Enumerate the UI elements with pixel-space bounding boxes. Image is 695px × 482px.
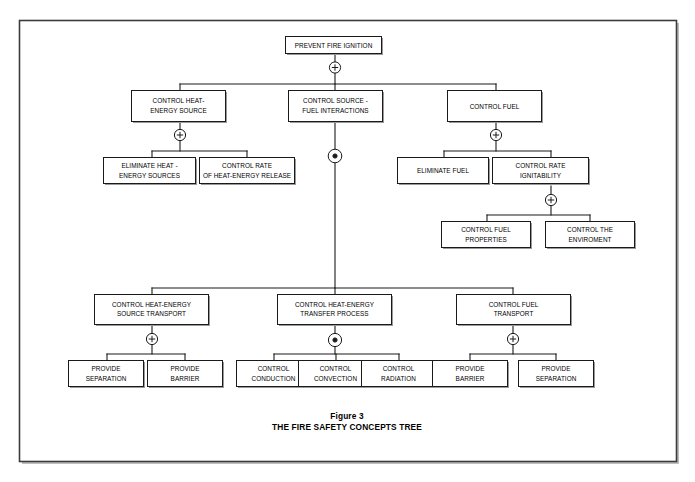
node-label-line1: PROVIDE bbox=[91, 365, 120, 372]
node-label-line1: CONTROL THE bbox=[567, 226, 613, 233]
figure-caption: Figure 3 THE FIRE SAFETY CONCEPTS TREE bbox=[272, 411, 422, 432]
figure-page: PREVENT FIRE IGNITION CONTROL HEAT- ENER… bbox=[0, 0, 695, 482]
node-provide-barrier-left[interactable]: PROVIDE BARRIER bbox=[148, 361, 225, 389]
node-label-line1: PREVENT FIRE IGNITION bbox=[295, 42, 373, 49]
gate-root-or[interactable] bbox=[329, 62, 340, 73]
node-label-line2: CONVECTION bbox=[314, 375, 357, 382]
node-control-heat-energy-source-transport[interactable]: CONTROL HEAT-ENERGY SOURCE TRANSPORT bbox=[95, 295, 211, 327]
node-label-line2: BARRIER bbox=[456, 375, 485, 382]
node-label-line2: SEPARATION bbox=[86, 375, 127, 382]
node-eliminate-heat-energy-sources[interactable]: ELIMINATE HEAT - ENERGY SOURCES bbox=[104, 158, 198, 186]
gate-source-transport-or[interactable] bbox=[146, 333, 157, 344]
node-label-line2: ENVIROMENT bbox=[568, 236, 611, 243]
node-control-source-fuel-interactions[interactable]: CONTROL SOURCE - FUEL INTERACTIONS bbox=[289, 91, 385, 124]
node-label-line1: CONTROL bbox=[320, 365, 352, 372]
node-control-fuel[interactable]: CONTROL FUEL bbox=[448, 91, 544, 124]
node-label-line1: CONTROL HEAT- bbox=[153, 97, 205, 104]
node-prevent-fire-ignition[interactable]: PREVENT FIRE IGNITION bbox=[286, 37, 384, 56]
node-eliminate-fuel[interactable]: ELIMINATE FUEL bbox=[398, 158, 491, 186]
node-label-line2: TRANSFER PROCESS bbox=[300, 310, 368, 317]
node-label-line2: BARRIER bbox=[171, 375, 200, 382]
node-control-rate-ignitability[interactable]: CONTROL RATE IGNITABILITY bbox=[493, 158, 591, 186]
gate-source-fuel-interactions-and[interactable] bbox=[328, 149, 342, 163]
node-label-line1: PROVIDE bbox=[170, 365, 199, 372]
node-label-line1: CONTROL RATE bbox=[516, 162, 566, 169]
gate-control-rate-ignitability-or[interactable] bbox=[545, 194, 556, 205]
node-label-line1: PROVIDE bbox=[455, 365, 484, 372]
node-control-radiation[interactable]: CONTROL RADIATION bbox=[362, 361, 438, 389]
node-label-line1: CONTROL FUEL bbox=[461, 226, 511, 233]
node-control-the-enviroment[interactable]: CONTROL THE ENVIROMENT bbox=[546, 222, 637, 250]
node-label-line2: TRANSPORT bbox=[494, 310, 534, 317]
node-control-fuel-properties[interactable]: CONTROL FUEL PROPERTIES bbox=[442, 222, 533, 250]
gate-dot bbox=[333, 154, 337, 158]
node-label-line1: ELIMINATE HEAT - bbox=[121, 162, 177, 169]
node-label-line2: SEPARATION bbox=[536, 375, 577, 382]
node-label-line1: ELIMINATE FUEL bbox=[417, 167, 469, 174]
node-label-line2: IGNITABILITY bbox=[520, 172, 562, 179]
node-label-line1: CONTROL RATE bbox=[222, 162, 272, 169]
node-label-line1: CONTROL HEAT-ENERGY bbox=[112, 301, 192, 308]
node-control-heat-energy-source[interactable]: CONTROL HEAT- ENERGY SOURCE bbox=[132, 91, 228, 124]
node-label-line2: PROPERTIES bbox=[465, 236, 507, 243]
node-label-line2: OF HEAT-ENERGY RELEASE bbox=[203, 172, 291, 179]
node-label-line2: CONDUCTION bbox=[252, 375, 296, 382]
node-label-line2: RADIATION bbox=[381, 375, 416, 382]
node-label-line1: CONTROL bbox=[258, 365, 290, 372]
gate-dot bbox=[333, 338, 337, 342]
gate-control-fuel-or[interactable] bbox=[490, 129, 501, 140]
node-label-line2: ENERGY SOURCES bbox=[119, 172, 180, 179]
gate-heat-energy-source-or[interactable] bbox=[174, 129, 185, 140]
gate-fuel-transport-or[interactable] bbox=[507, 333, 518, 344]
node-label-line2: ENERGY SOURCE bbox=[150, 107, 207, 114]
node-label-line2: FUEL INTERACTIONS bbox=[302, 107, 368, 114]
node-label-line1: CONTROL SOURCE - bbox=[303, 97, 368, 104]
node-control-heat-energy-transfer-process[interactable]: CONTROL HEAT-ENERGY TRANSFER PROCESS bbox=[278, 295, 394, 327]
node-label-line1: CONTROL FUEL bbox=[470, 103, 520, 110]
caption-line-2: THE FIRE SAFETY CONCEPTS TREE bbox=[272, 422, 422, 432]
node-control-fuel-transport[interactable]: CONTROL FUEL TRANSPORT bbox=[457, 295, 573, 327]
node-label-line1: CONTROL FUEL bbox=[489, 301, 539, 308]
node-label-line1: CONTROL bbox=[383, 365, 415, 372]
node-label-line1: PROVIDE bbox=[541, 365, 570, 372]
node-label-line2: SOURCE TRANSPORT bbox=[117, 310, 186, 317]
node-provide-barrier-right[interactable]: PROVIDE BARRIER bbox=[433, 361, 510, 389]
caption-line-1: Figure 3 bbox=[330, 411, 364, 421]
node-provide-separation-left[interactable]: PROVIDE SEPARATION bbox=[69, 361, 146, 389]
node-provide-separation-right[interactable]: PROVIDE SEPARATION bbox=[519, 361, 596, 389]
gate-transfer-process-and[interactable] bbox=[328, 333, 341, 346]
node-label-line1: CONTROL HEAT-ENERGY bbox=[295, 301, 375, 308]
fire-safety-concepts-tree-diagram: PREVENT FIRE IGNITION CONTROL HEAT- ENER… bbox=[0, 0, 695, 482]
node-control-rate-of-heat-energy-release[interactable]: CONTROL RATE OF HEAT-ENERGY RELEASE bbox=[200, 158, 297, 186]
